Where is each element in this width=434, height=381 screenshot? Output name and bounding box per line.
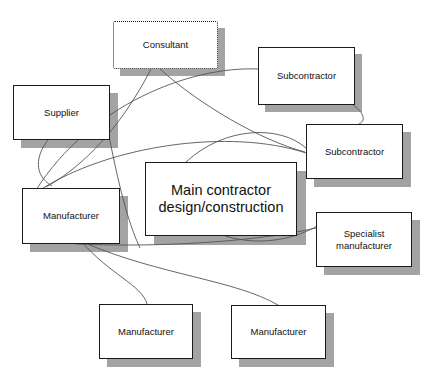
connector-c10 [80,240,147,304]
diagram-canvas: ConsultantSubcontractorSupplierSubcontra… [0,0,434,381]
node-manufacturer-bottom-left[interactable]: Manufacturer [99,304,193,359]
node-supplier[interactable]: Supplier [13,85,110,140]
node-label-subcontractor-top: Subcontractor [273,70,340,81]
node-main-contractor[interactable]: Main contractor design/construction [145,162,297,236]
node-label-consultant: Consultant [139,39,192,50]
node-label-supplier: Supplier [40,107,83,118]
node-label-manufacturer-left: Manufacturer [39,210,103,221]
connector-c3 [38,140,52,186]
node-manufacturer-left[interactable]: Manufacturer [22,188,120,244]
node-subcontractor-right[interactable]: Subcontractor [306,124,403,179]
connector-c6 [352,104,363,126]
node-label-manufacturer-bottom-left: Manufacturer [114,326,178,337]
node-specialist-manufacturer[interactable]: Specialist manufacturer [316,212,412,267]
node-manufacturer-bottom-right[interactable]: Manufacturer [231,305,326,359]
connector-c7 [186,133,306,162]
node-label-main-contractor: Main contractor design/construction [155,182,288,216]
connector-c11 [85,243,278,305]
node-label-specialist-manufacturer: Specialist manufacturer [332,228,396,250]
node-label-subcontractor-right: Subcontractor [321,146,388,157]
node-consultant[interactable]: Consultant [113,21,218,69]
node-subcontractor-top[interactable]: Subcontractor [258,47,355,105]
node-label-manufacturer-bottom-right: Manufacturer [247,326,311,337]
